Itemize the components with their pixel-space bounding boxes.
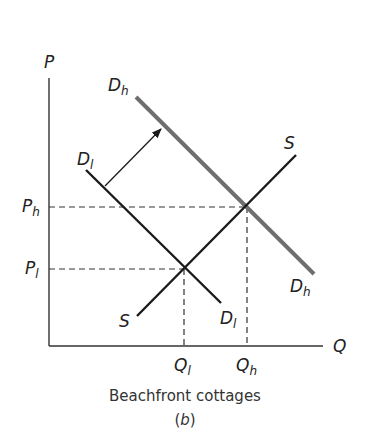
s-bottom-label: S <box>119 311 130 331</box>
qh-tick-label: Qh <box>236 355 257 378</box>
dh-top-label: Dh <box>108 75 129 98</box>
panel-label: (b) <box>174 411 195 429</box>
demand-low-line <box>86 170 221 303</box>
s-top-label: S <box>284 133 295 153</box>
dh-bottom-label: Dh <box>290 276 311 299</box>
pl-tick-label: Pl <box>25 258 39 281</box>
ql-tick-label: Ql <box>174 355 191 378</box>
ph-tick-label: Ph <box>22 196 40 219</box>
dl-top-label: Dl <box>77 149 94 172</box>
dl-bottom-label: Dl <box>220 308 237 331</box>
supply-demand-chart: P Q Dh Dl S Dh Dl S Ph Pl Ql Qh Beachfro… <box>0 0 370 437</box>
demand-high-line <box>136 97 314 274</box>
y-axis-label: P <box>44 52 55 72</box>
demand-shift-arrow <box>105 129 161 186</box>
chart-caption: Beachfront cottages <box>109 387 261 405</box>
x-axis-label: Q <box>333 336 346 356</box>
